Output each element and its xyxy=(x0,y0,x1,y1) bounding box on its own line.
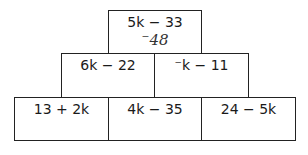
bottom-brick-middle: 4k − 35 xyxy=(108,97,202,141)
bottom-brick-left: 13 + 2k xyxy=(14,97,109,141)
bottom-middle-expression: 4k − 35 xyxy=(127,101,182,117)
bottom-brick-right: 24 − 5k xyxy=(201,97,296,141)
handwritten-answer: ⁻48 xyxy=(109,32,201,48)
middle-brick-right: ⁻k − 11 xyxy=(154,53,249,98)
middle-brick-left: 6k − 22 xyxy=(61,53,155,98)
bottom-left-expression: 13 + 2k xyxy=(34,101,89,117)
top-expression: 5k − 33 xyxy=(127,14,182,30)
bottom-right-expression: 24 − 5k xyxy=(221,101,276,117)
top-brick: 5k − 33 ⁻48 xyxy=(108,10,202,54)
middle-right-expression: ⁻k − 11 xyxy=(175,57,229,73)
middle-left-expression: 6k − 22 xyxy=(80,57,135,73)
